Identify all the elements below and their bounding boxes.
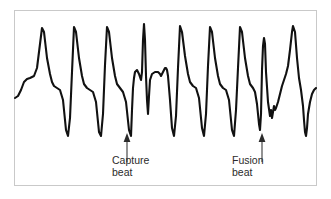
capture-beat-label-line2: beat bbox=[112, 167, 149, 179]
ecg-trace-line bbox=[15, 24, 316, 136]
ecg-figure: Capture beat Fusion beat bbox=[0, 0, 331, 199]
fusion-beat-label: Fusion beat bbox=[232, 155, 264, 178]
fusion-beat-label-line1: Fusion bbox=[232, 155, 264, 167]
fusion-beat-label-line2: beat bbox=[232, 167, 264, 179]
capture-beat-label-line1: Capture bbox=[112, 155, 149, 167]
capture-beat-label: Capture beat bbox=[112, 155, 149, 178]
ecg-waveform-canvas bbox=[14, 10, 317, 186]
